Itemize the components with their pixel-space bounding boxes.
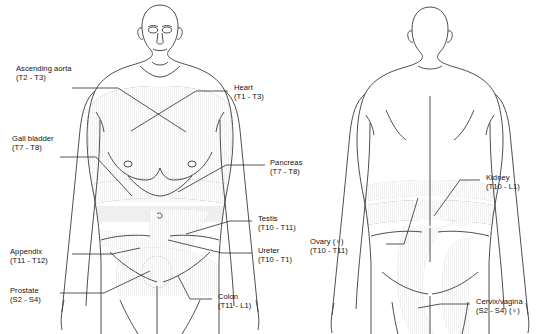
label-gall-bladder: Gall bladder (T7 - T8) — [12, 134, 54, 153]
label-ureter: Ureter (T10 - T1) — [258, 246, 292, 265]
label-heart-levels: (T1 - T3) — [234, 92, 264, 101]
region-cervix-vagina — [397, 218, 470, 334]
front-figure-shading — [84, 86, 236, 296]
label-appendix-organ: Appendix — [10, 247, 42, 256]
label-kidney-organ: Kidney — [486, 173, 510, 182]
label-appendix-levels: (T11 - T12) — [10, 256, 48, 265]
label-ovary-organ: Ovary (♀) — [310, 237, 344, 246]
label-ascending-aorta-organ: Ascending aorta — [16, 64, 72, 73]
label-ureter-organ: Ureter — [258, 246, 279, 255]
back-body-outline — [331, 7, 529, 334]
label-ovary: Ovary (♀) (T10 - T11) — [310, 237, 348, 256]
label-ovary-levels: (T10 - T11) — [310, 246, 348, 255]
label-ascending-aorta-levels: (T2 - T3) — [16, 73, 72, 82]
label-colon-organ: Colon — [218, 292, 238, 301]
label-cervix-vagina: Cervix/vagina (S2 - S4) (♀) — [476, 297, 523, 316]
label-heart-organ: Heart — [234, 83, 253, 92]
region-prostate-spot — [142, 256, 172, 288]
label-testis: Testis (T10 - T11) — [258, 214, 296, 233]
label-ureter-levels: (T10 - T1) — [258, 255, 292, 264]
label-kidney-levels: (T10 - L1) — [486, 182, 520, 191]
label-appendix: Appendix (T11 - T12) — [10, 247, 48, 266]
label-colon: Colon (T11 - L1) — [218, 292, 251, 311]
label-gall-bladder-organ: Gall bladder — [12, 134, 54, 143]
label-prostate-levels: (S2 - S4) — [10, 295, 41, 304]
label-pancreas: Pancreas (T7 - T8) — [270, 158, 302, 177]
label-colon-levels: (T11 - L1) — [218, 301, 251, 310]
label-pancreas-organ: Pancreas — [270, 158, 302, 167]
label-testis-levels: (T10 - T11) — [258, 223, 296, 232]
label-heart: Heart (T1 - T3) — [234, 83, 264, 102]
label-testis-organ: Testis — [258, 214, 278, 223]
label-ascending-aorta: Ascending aorta (T2 - T3) — [16, 64, 72, 83]
label-cervix-vagina-levels: (S2 - S4) (♀) — [476, 306, 523, 315]
label-prostate: Prostate (S2 - S4) — [10, 286, 41, 305]
label-pancreas-levels: (T7 - T8) — [270, 167, 302, 176]
referred-pain-diagram: Ascending aorta (T2 - T3) Heart (T1 - T3… — [0, 0, 559, 334]
label-prostate-organ: Prostate — [10, 286, 39, 295]
label-kidney: Kidney (T10 - L1) — [486, 173, 520, 192]
label-gall-bladder-levels: (T7 - T8) — [12, 143, 54, 152]
label-cervix-vagina-organ: Cervix/vagina — [476, 297, 523, 306]
